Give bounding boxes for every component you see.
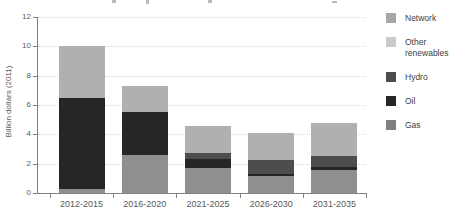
y-tick-label: 2 [14, 160, 31, 168]
x-category-label: 2031-2035 [303, 199, 366, 209]
y-tick-label: 10 [14, 42, 31, 50]
stacked-bar-chart: Billion dollars (2011) 024681012 2012-20… [0, 0, 465, 224]
clipped-title-fragment [208, 0, 212, 3]
bars-area [50, 17, 366, 193]
legend-swatch-icon [386, 96, 396, 106]
bar-segment-gas [311, 170, 357, 193]
x-category-label: 2026-2030 [240, 199, 303, 209]
bar-slot [176, 17, 239, 193]
bar-segment-hydro [248, 160, 294, 174]
bar-segment-gas [185, 168, 231, 193]
y-tick-label: 8 [14, 72, 31, 80]
legend-item-hydro: Hydro [386, 72, 465, 83]
legend-label: Hydro [405, 72, 428, 83]
stacked-bar [185, 126, 231, 193]
bar-slot [113, 17, 176, 193]
clipped-title-fragment [332, 1, 337, 3]
stacked-bar [122, 86, 168, 193]
y-tick-label: 0 [14, 189, 31, 197]
x-tick-mark [303, 194, 304, 198]
bar-slot [50, 17, 113, 193]
legend-label: Gas [405, 120, 421, 131]
legend-label: Oil [405, 96, 415, 107]
bar-segment-oil [59, 98, 105, 189]
bar-segment-network [248, 133, 294, 160]
y-tick-label: 12 [14, 13, 31, 21]
bar-segment-gas [248, 176, 294, 193]
legend-label: Other renewables [405, 37, 465, 59]
stacked-bar [59, 46, 105, 193]
stacked-bar [311, 123, 357, 193]
legend-item-network: Network [386, 13, 465, 24]
legend-swatch-icon [386, 37, 396, 47]
legend-label: Network [405, 13, 436, 24]
x-tick-mark [50, 194, 51, 198]
bar-segment-network [59, 46, 105, 97]
legend-swatch-icon [386, 72, 396, 82]
y-axis-title: Billion dollars (2011) [4, 54, 13, 150]
x-tick-mark [240, 194, 241, 198]
y-axis-line [37, 17, 38, 194]
stacked-bar [248, 133, 294, 193]
legend-item-other-renewables: Other renewables [386, 37, 465, 59]
bar-segment-oil [122, 112, 168, 155]
legend-item-gas: Gas [386, 120, 465, 131]
y-tick-label: 6 [14, 101, 31, 109]
legend-item-oil: Oil [386, 96, 465, 107]
bar-segment-oil [185, 159, 231, 168]
x-tick-mark [366, 194, 367, 198]
x-tick-mark [113, 194, 114, 198]
legend: NetworkOther renewablesHydroOilGas [386, 13, 465, 144]
bar-segment-network [122, 86, 168, 112]
bar-segment-network [311, 123, 357, 156]
bar-slot [240, 17, 303, 193]
bar-segment-gas [122, 155, 168, 193]
legend-swatch-icon [386, 120, 396, 130]
clipped-title-fragment [146, 0, 149, 4]
bar-slot [303, 17, 366, 193]
x-category-label: 2021-2025 [177, 199, 240, 209]
bar-segment-network [185, 126, 231, 154]
legend-swatch-icon [386, 13, 396, 23]
x-axis-line [37, 193, 367, 194]
y-tick-label: 4 [14, 130, 31, 138]
x-category-label: 2016-2020 [113, 199, 176, 209]
bar-segment-hydro [311, 156, 357, 167]
x-tick-mark [176, 194, 177, 198]
clipped-title-fragment [112, 0, 116, 3]
x-category-label: 2012-2015 [50, 199, 113, 209]
